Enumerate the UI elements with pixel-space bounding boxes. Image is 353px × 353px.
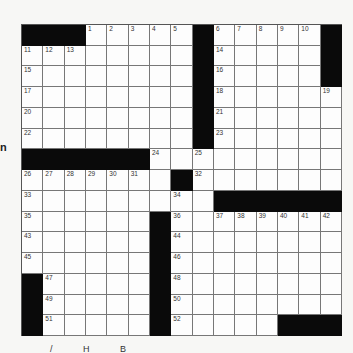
crossword-cell[interactable]: 48 bbox=[171, 274, 192, 295]
crossword-cell[interactable] bbox=[193, 295, 214, 316]
crossword-cell[interactable]: 39 bbox=[257, 212, 278, 233]
crossword-cell[interactable] bbox=[107, 66, 128, 87]
crossword-cell[interactable]: 19 bbox=[321, 87, 342, 108]
crossword-cell[interactable] bbox=[150, 129, 171, 150]
crossword-cell[interactable]: 30 bbox=[107, 170, 128, 191]
crossword-cell[interactable]: 5 bbox=[171, 25, 192, 46]
crossword-cell[interactable] bbox=[86, 274, 107, 295]
crossword-cell[interactable]: 17 bbox=[22, 87, 43, 108]
crossword-cell[interactable] bbox=[299, 129, 320, 150]
crossword-cell[interactable] bbox=[65, 87, 86, 108]
crossword-cell[interactable]: 9 bbox=[278, 25, 299, 46]
crossword-cell[interactable] bbox=[86, 253, 107, 274]
crossword-cell[interactable] bbox=[129, 66, 150, 87]
crossword-cell[interactable] bbox=[257, 129, 278, 150]
crossword-cell[interactable]: 42 bbox=[321, 212, 342, 233]
crossword-cell[interactable] bbox=[214, 295, 235, 316]
crossword-cell[interactable] bbox=[107, 87, 128, 108]
crossword-cell[interactable]: 34 bbox=[171, 191, 192, 212]
crossword-cell[interactable] bbox=[43, 129, 64, 150]
crossword-cell[interactable] bbox=[235, 274, 256, 295]
crossword-cell[interactable]: 49 bbox=[43, 295, 64, 316]
crossword-cell[interactable] bbox=[257, 295, 278, 316]
crossword-cell[interactable] bbox=[129, 295, 150, 316]
crossword-cell[interactable]: 15 bbox=[22, 66, 43, 87]
crossword-cell[interactable] bbox=[214, 274, 235, 295]
crossword-cell[interactable] bbox=[171, 46, 192, 67]
crossword-cell[interactable] bbox=[43, 87, 64, 108]
crossword-cell[interactable] bbox=[86, 129, 107, 150]
crossword-cell[interactable] bbox=[150, 87, 171, 108]
crossword-cell[interactable] bbox=[86, 108, 107, 129]
crossword-cell[interactable]: 41 bbox=[299, 212, 320, 233]
crossword-cell[interactable] bbox=[86, 315, 107, 336]
crossword-cell[interactable] bbox=[65, 108, 86, 129]
crossword-cell[interactable] bbox=[278, 129, 299, 150]
crossword-cell[interactable] bbox=[129, 191, 150, 212]
crossword-cell[interactable]: 3 bbox=[129, 25, 150, 46]
crossword-cell[interactable] bbox=[235, 295, 256, 316]
crossword-cell[interactable] bbox=[299, 66, 320, 87]
crossword-cell[interactable] bbox=[235, 66, 256, 87]
crossword-cell[interactable]: 46 bbox=[171, 253, 192, 274]
crossword-cell[interactable]: 13 bbox=[65, 46, 86, 67]
crossword-cell[interactable] bbox=[65, 212, 86, 233]
crossword-cell[interactable] bbox=[129, 108, 150, 129]
crossword-cell[interactable]: 36 bbox=[171, 212, 192, 233]
crossword-cell[interactable] bbox=[299, 274, 320, 295]
crossword-cell[interactable] bbox=[43, 191, 64, 212]
crossword-cell[interactable] bbox=[86, 232, 107, 253]
crossword-cell[interactable] bbox=[129, 46, 150, 67]
crossword-cell[interactable]: 2 bbox=[107, 25, 128, 46]
crossword-cell[interactable] bbox=[278, 108, 299, 129]
crossword-cell[interactable]: 45 bbox=[22, 253, 43, 274]
crossword-cell[interactable] bbox=[65, 253, 86, 274]
crossword-cell[interactable] bbox=[150, 170, 171, 191]
crossword-cell[interactable] bbox=[257, 315, 278, 336]
crossword-cell[interactable]: 25 bbox=[193, 149, 214, 170]
crossword-cell[interactable] bbox=[235, 87, 256, 108]
crossword-cell[interactable] bbox=[257, 274, 278, 295]
crossword-cell[interactable] bbox=[214, 149, 235, 170]
crossword-cell[interactable]: 10 bbox=[299, 25, 320, 46]
crossword-cell[interactable] bbox=[257, 87, 278, 108]
crossword-cell[interactable]: 33 bbox=[22, 191, 43, 212]
crossword-cell[interactable] bbox=[107, 295, 128, 316]
crossword-cell[interactable] bbox=[193, 191, 214, 212]
crossword-cell[interactable] bbox=[257, 108, 278, 129]
crossword-cell[interactable] bbox=[86, 66, 107, 87]
crossword-cell[interactable] bbox=[321, 170, 342, 191]
crossword-cell[interactable] bbox=[171, 108, 192, 129]
crossword-cell[interactable]: 40 bbox=[278, 212, 299, 233]
crossword-cell[interactable] bbox=[86, 295, 107, 316]
crossword-cell[interactable] bbox=[214, 315, 235, 336]
crossword-cell[interactable] bbox=[299, 295, 320, 316]
crossword-cell[interactable]: 31 bbox=[129, 170, 150, 191]
crossword-cell[interactable] bbox=[235, 46, 256, 67]
crossword-cell[interactable] bbox=[321, 129, 342, 150]
crossword-cell[interactable] bbox=[107, 253, 128, 274]
crossword-cell[interactable] bbox=[235, 170, 256, 191]
crossword-cell[interactable] bbox=[65, 129, 86, 150]
crossword-cell[interactable]: 1 bbox=[86, 25, 107, 46]
crossword-cell[interactable] bbox=[299, 149, 320, 170]
crossword-cell[interactable] bbox=[235, 149, 256, 170]
crossword-cell[interactable] bbox=[257, 66, 278, 87]
crossword-cell[interactable] bbox=[171, 149, 192, 170]
crossword-cell[interactable]: 16 bbox=[214, 66, 235, 87]
crossword-cell[interactable]: 32 bbox=[193, 170, 214, 191]
crossword-cell[interactable] bbox=[235, 315, 256, 336]
crossword-cell[interactable]: 8 bbox=[257, 25, 278, 46]
crossword-cell[interactable]: 24 bbox=[150, 149, 171, 170]
crossword-cell[interactable] bbox=[65, 315, 86, 336]
crossword-cell[interactable] bbox=[43, 66, 64, 87]
crossword-cell[interactable]: 51 bbox=[43, 315, 64, 336]
crossword-cell[interactable] bbox=[150, 46, 171, 67]
crossword-cell[interactable] bbox=[299, 232, 320, 253]
crossword-cell[interactable] bbox=[150, 108, 171, 129]
crossword-cell[interactable] bbox=[278, 232, 299, 253]
crossword-cell[interactable] bbox=[171, 87, 192, 108]
crossword-cell[interactable] bbox=[278, 66, 299, 87]
crossword-cell[interactable] bbox=[235, 232, 256, 253]
crossword-cell[interactable] bbox=[278, 170, 299, 191]
